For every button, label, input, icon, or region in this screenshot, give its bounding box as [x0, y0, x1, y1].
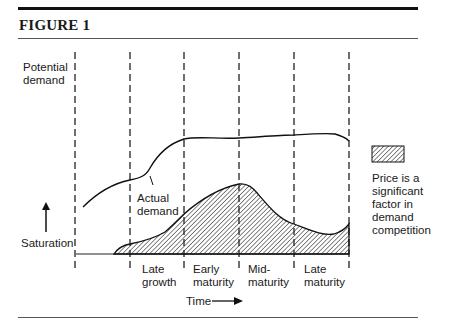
stage-line2: maturity [304, 276, 345, 289]
legend-text: Price is a significant factor in demand … [372, 172, 431, 237]
potential-demand-line2: demand [23, 74, 68, 87]
actual-demand-line2: demand [137, 205, 179, 218]
right-arrow-icon [212, 297, 243, 305]
legend-line: competition [372, 224, 431, 237]
stage-label-mid-maturity: Mid- maturity [248, 263, 289, 289]
potential-demand-label: Potential demand [23, 61, 68, 87]
actual-demand-leader [150, 176, 153, 185]
legend-line: demand [372, 211, 431, 224]
up-arrow-icon [42, 202, 50, 232]
potential-demand-line1: Potential [23, 61, 68, 74]
stage-line1: Mid- [248, 263, 289, 276]
legend-line: Price is a [372, 172, 431, 185]
stage-line2: maturity [193, 276, 234, 289]
stage-line1: Early [193, 263, 234, 276]
stage-label-late-maturity: Late maturity [304, 263, 345, 289]
stage-label-late-growth: Late growth [142, 263, 177, 289]
legend-line: factor in [372, 198, 431, 211]
saturation-label: Saturation [21, 237, 73, 250]
stage-line2: maturity [248, 276, 289, 289]
actual-demand-line1: Actual [137, 192, 179, 205]
legend-hatch-swatch [372, 146, 404, 162]
time-label: Time [186, 295, 211, 308]
stage-line1: Late [142, 263, 177, 276]
stage-label-early-maturity: Early maturity [193, 263, 234, 289]
actual-demand-label: Actual demand [137, 192, 179, 218]
bottom-rule [18, 317, 418, 318]
stage-line1: Late [304, 263, 345, 276]
stage-line2: growth [142, 276, 177, 289]
legend-line: significant [372, 185, 431, 198]
